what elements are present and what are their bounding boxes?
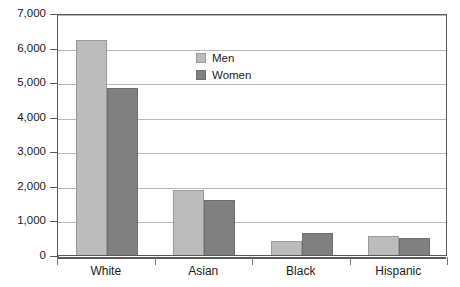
- x-axis-label-hispanic: Hispanic: [348, 264, 448, 278]
- y-axis-tick-label: 4,000: [0, 112, 46, 123]
- y-axis-tick: [50, 83, 57, 84]
- legend-swatch-women-icon: [196, 70, 206, 80]
- y-axis-tick: [50, 256, 57, 257]
- chart-legend: Men Women: [196, 50, 251, 84]
- bar-white-women: [107, 88, 138, 255]
- plot-area: [57, 14, 447, 256]
- legend-item-women: Women: [196, 67, 251, 82]
- y-axis-tick: [50, 221, 57, 222]
- y-axis-tick-label: 1,000: [0, 215, 46, 226]
- legend-swatch-men-icon: [196, 53, 206, 63]
- x-axis-label-asian: Asian: [153, 264, 253, 278]
- bar-asian-men: [173, 190, 204, 255]
- gridline: [58, 15, 446, 16]
- gridline: [58, 50, 446, 51]
- y-axis-tick-label: 5,000: [0, 77, 46, 88]
- bar-black-women: [302, 233, 333, 255]
- legend-label-men: Men: [212, 52, 234, 64]
- y-axis-tick: [50, 49, 57, 50]
- gridline: [58, 84, 446, 85]
- x-axis-label-black: Black: [251, 264, 351, 278]
- y-axis-tick: [50, 187, 57, 188]
- bar-asian-women: [204, 200, 235, 255]
- y-axis-tick-label: 3,000: [0, 146, 46, 157]
- y-axis-tick: [50, 14, 57, 15]
- bar-black-men: [271, 241, 302, 255]
- y-axis-tick-label: 0: [0, 250, 46, 261]
- y-axis-tick-label: 2,000: [0, 181, 46, 192]
- legend-item-men: Men: [196, 50, 251, 65]
- bar-white-men: [76, 40, 107, 255]
- bar-chart: 01,0002,0003,0004,0005,0006,0007,000 Whi…: [0, 0, 460, 287]
- bar-hispanic-women: [399, 238, 430, 255]
- y-axis-tick-label: 6,000: [0, 43, 46, 54]
- x-axis-label-white: White: [56, 264, 156, 278]
- y-axis-tick: [50, 118, 57, 119]
- legend-label-women: Women: [212, 69, 251, 81]
- bar-hispanic-men: [368, 236, 399, 255]
- y-axis-tick-label: 7,000: [0, 8, 46, 19]
- y-axis-tick: [50, 152, 57, 153]
